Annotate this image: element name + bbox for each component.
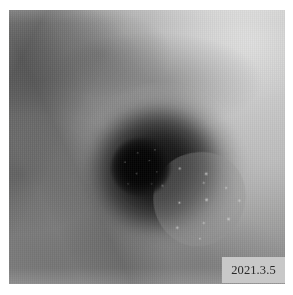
date-stamp-text: 2021.3.5 (231, 264, 276, 277)
date-stamp: 2021.3.5 (222, 257, 285, 283)
page-root: 2021.3.5 (0, 0, 293, 295)
clinical-photo: 2021.3.5 (9, 10, 285, 284)
